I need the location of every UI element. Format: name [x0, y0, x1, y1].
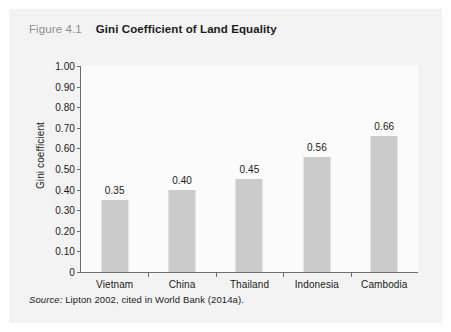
- x-axis-category-label: China: [169, 279, 196, 290]
- bar: [303, 157, 330, 272]
- x-tick-mark: [283, 272, 284, 277]
- bar-value-label: 0.56: [307, 142, 327, 153]
- bar-group: 0.40China: [148, 66, 215, 272]
- x-axis-category-label: Indonesia: [295, 279, 339, 290]
- figure-number: Figure 4.1: [29, 23, 82, 35]
- bar: [236, 179, 263, 272]
- bar: [371, 136, 398, 272]
- figure-header: Figure 4.1 Gini Coefficient of Land Equa…: [29, 23, 277, 35]
- figure-panel: Figure 4.1 Gini Coefficient of Land Equa…: [9, 9, 442, 323]
- x-axis-category-label: Cambodia: [361, 279, 407, 290]
- source-label: Source:: [29, 294, 62, 305]
- x-tick-mark: [216, 272, 217, 277]
- bar: [101, 200, 128, 272]
- bar: [169, 190, 196, 272]
- y-axis-title: Gini coefficient: [35, 76, 46, 236]
- x-axis-category-label: Thailand: [230, 279, 269, 290]
- bar-group: 0.45Thailand: [216, 66, 283, 272]
- source-text: Lipton 2002, cited in World Bank (2014a)…: [62, 294, 243, 305]
- bar-value-label: 0.45: [240, 164, 260, 175]
- bar-group: 0.35Vietnam: [81, 66, 148, 272]
- bar-group: 0.66Cambodia: [351, 66, 418, 272]
- source-note: Source: Lipton 2002, cited in World Bank…: [29, 294, 244, 305]
- bar-value-label: 0.40: [172, 175, 192, 186]
- plot-area: 1.000.900.800.700.600.500.400.300.200.10…: [80, 66, 418, 273]
- bar-value-label: 0.35: [105, 185, 125, 196]
- y-tick-mark: [77, 272, 81, 273]
- figure-title: Gini Coefficient of Land Equality: [96, 23, 277, 35]
- bar-value-label: 0.66: [374, 121, 394, 132]
- x-tick-mark: [148, 272, 149, 277]
- x-tick-mark: [351, 272, 352, 277]
- x-axis-category-label: Vietnam: [96, 279, 133, 290]
- bar-group: 0.56Indonesia: [283, 66, 350, 272]
- bar-chart: Gini coefficient 1.000.900.800.700.600.5…: [9, 43, 442, 291]
